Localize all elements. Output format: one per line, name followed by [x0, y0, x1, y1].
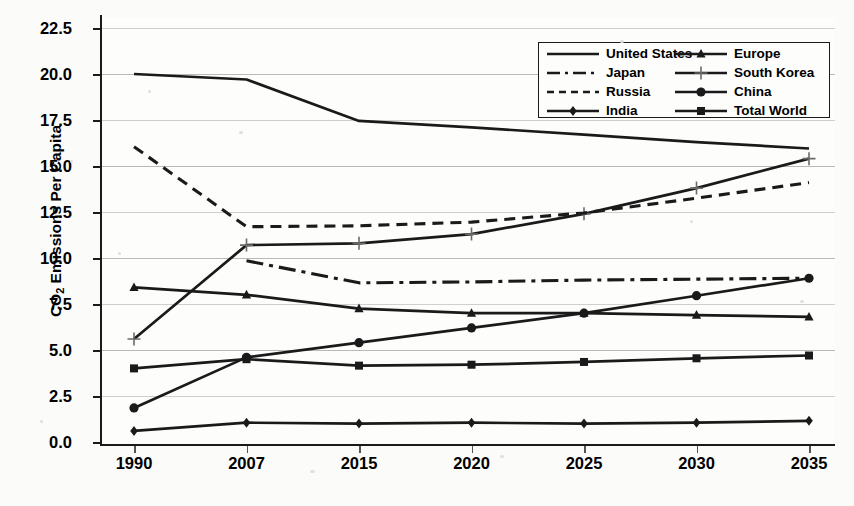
- y-axis-tick-label: 22.5: [2, 19, 72, 38]
- y-axis-tick-mark: [93, 258, 100, 260]
- x-axis-tick-label: 2007: [202, 454, 292, 473]
- x-axis-tick-label: 1990: [89, 454, 179, 473]
- series-line: [134, 147, 809, 227]
- legend-entry-europe[interactable]: Europe: [667, 44, 831, 63]
- series-europe: [129, 282, 813, 320]
- data-point-marker: [569, 106, 577, 116]
- data-point-marker: [697, 107, 705, 115]
- paper-speckle: [800, 300, 804, 303]
- y-axis-tick-label: 0.0: [2, 433, 72, 452]
- paper-speckle: [620, 40, 624, 43]
- y-axis-title-subscript: 2: [54, 288, 66, 294]
- legend-entry-india[interactable]: India: [539, 101, 667, 120]
- paper-speckle: [310, 470, 315, 473]
- y-axis-tick-label: 10.0: [2, 249, 72, 268]
- x-axis-tick-label: 2025: [539, 454, 629, 473]
- legend-swatch-solid-diamond-icon: [545, 104, 601, 118]
- data-point-marker: [579, 309, 588, 318]
- data-point-marker: [805, 352, 813, 360]
- legend-swatch-solid-icon: [545, 47, 601, 61]
- data-point-marker: [465, 228, 478, 241]
- paper-speckle: [148, 90, 151, 93]
- data-point-marker: [468, 361, 476, 369]
- data-point-marker: [690, 182, 703, 195]
- x-axis-tick-label: 2030: [652, 454, 742, 473]
- legend-entry-china[interactable]: China: [667, 82, 831, 101]
- legend-swatch-solid-square-icon: [673, 104, 729, 118]
- data-point-marker: [467, 323, 476, 332]
- legend-entry-south-korea[interactable]: South Korea: [667, 63, 831, 82]
- legend-swatch-solid-plus-icon: [673, 66, 729, 80]
- series-total-world: [130, 352, 813, 373]
- x-axis-tick-mark: [247, 446, 249, 453]
- legend-entry-united-states[interactable]: United States: [539, 44, 667, 63]
- data-point-marker: [243, 418, 251, 428]
- x-axis-tick-mark: [809, 446, 811, 453]
- y-axis-tick-mark: [93, 166, 100, 168]
- x-axis-tick-mark: [584, 446, 586, 453]
- data-point-marker: [129, 403, 138, 412]
- paper-speckle: [239, 131, 243, 134]
- data-point-marker: [354, 338, 363, 347]
- y-axis-tick-mark: [93, 396, 100, 398]
- data-point-marker: [803, 152, 816, 165]
- data-point-marker: [696, 87, 705, 96]
- x-axis-tick-mark: [359, 446, 361, 453]
- x-axis-tick-mark: [697, 446, 699, 453]
- data-point-marker: [693, 418, 701, 428]
- series-india: [130, 416, 813, 436]
- x-axis-tick-mark: [472, 446, 474, 453]
- legend-swatch-dashed-icon: [545, 85, 601, 99]
- y-axis-tick-mark: [93, 442, 100, 444]
- y-axis-tick-label: 2.5: [2, 387, 72, 406]
- y-axis-tick-label: 12.5: [2, 203, 72, 222]
- data-point-marker: [130, 426, 138, 436]
- y-axis-tick-mark: [93, 304, 100, 306]
- data-point-marker: [805, 416, 813, 426]
- legend-entry-total-world[interactable]: Total World: [667, 101, 831, 120]
- legend-label: China: [734, 84, 772, 99]
- series-line: [134, 278, 809, 408]
- paper-speckle: [118, 252, 121, 255]
- series-russia: [134, 147, 809, 227]
- data-point-marker: [353, 237, 366, 250]
- data-point-marker: [580, 419, 588, 429]
- paper-speckle: [690, 220, 693, 223]
- y-axis-tick-label: 17.5: [2, 111, 72, 130]
- y-axis-tick-label: 7.5: [2, 295, 72, 314]
- chart-legend: United StatesEuropeJapanSouth KoreaRussi…: [538, 42, 830, 118]
- legend-label: Total World: [734, 103, 807, 118]
- y-axis-tick-mark: [93, 120, 100, 122]
- data-point-marker: [468, 418, 476, 428]
- paper-speckle: [70, 160, 73, 163]
- y-axis-tick-mark: [93, 350, 100, 352]
- legend-swatch-dashdot-icon: [545, 66, 601, 80]
- chart-container: CO2 Emissions Per Capita 0.02.55.07.510.…: [0, 0, 854, 506]
- data-point-marker: [355, 362, 363, 370]
- y-axis-tick-label: 5.0: [2, 341, 72, 360]
- data-point-marker: [580, 358, 588, 366]
- legend-swatch-solid-circle-icon: [673, 85, 729, 99]
- y-axis-tick-mark: [93, 212, 100, 214]
- legend-entry-japan[interactable]: Japan: [539, 63, 667, 82]
- legend-entry-russia[interactable]: Russia: [539, 82, 667, 101]
- data-point-marker: [355, 419, 363, 429]
- x-axis-tick-label: 2035: [764, 454, 854, 473]
- legend-swatch-solid-triangle-icon: [673, 47, 729, 61]
- series-japan: [247, 261, 810, 283]
- legend-label: India: [606, 103, 638, 118]
- series-line: [247, 261, 810, 283]
- data-point-marker: [804, 274, 813, 283]
- legend-label: South Korea: [734, 65, 814, 80]
- data-point-marker: [693, 354, 701, 362]
- legend-label: Japan: [606, 65, 645, 80]
- paper-speckle: [500, 455, 504, 458]
- paper-speckle: [40, 420, 43, 423]
- y-axis-tick-mark: [93, 28, 100, 30]
- data-point-marker: [695, 66, 708, 79]
- data-point-marker: [243, 355, 251, 363]
- data-point-marker: [130, 364, 138, 372]
- data-point-marker: [692, 291, 701, 300]
- x-axis-tick-label: 2015: [314, 454, 404, 473]
- x-axis-tick-mark: [134, 446, 136, 453]
